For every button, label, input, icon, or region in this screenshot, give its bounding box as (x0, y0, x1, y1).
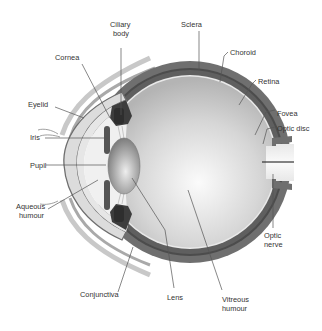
eye-anatomy-diagram: Ciliary body Sclera Choroid Retina Fovea… (0, 0, 322, 331)
label-fovea: Fovea (277, 109, 298, 118)
label-ciliary-body: Ciliary (110, 20, 131, 29)
label-retina: Retina (258, 77, 280, 86)
label-ciliary-body-2: body (113, 29, 129, 38)
label-choroid: Choroid (230, 48, 256, 57)
label-aqueous-humour: Aqueous (16, 202, 45, 211)
label-optic-disc: Optic disc (277, 124, 310, 133)
label-vitreous-humour: Vitreous (222, 295, 249, 304)
lens (108, 138, 140, 194)
label-aqueous-humour-2: humour (19, 211, 45, 220)
label-conjunctiva: Conjunctiva (80, 290, 120, 299)
label-vitreous-humour-2: humour (222, 304, 248, 313)
label-optic-nerve: Optic (264, 231, 282, 240)
label-iris: Iris (30, 133, 40, 142)
label-cornea: Cornea (55, 53, 80, 62)
label-lens: Lens (167, 293, 183, 302)
label-pupil: Pupil (30, 161, 47, 170)
label-optic-nerve-2: nerve (264, 240, 283, 249)
label-eyelid: Eyelid (28, 100, 48, 109)
label-sclera: Sclera (181, 20, 203, 29)
